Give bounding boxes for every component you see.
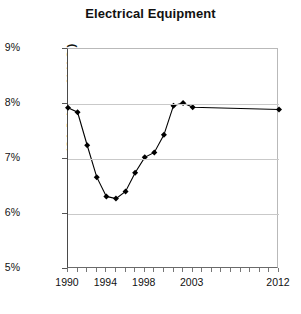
series-polyline (68, 103, 279, 199)
chart-title: Electrical Equipment (0, 6, 301, 21)
y-axis-tick-mark (62, 158, 67, 159)
x-axis-tick-mark (77, 268, 78, 272)
x-axis-tick-label: 1998 (132, 276, 155, 288)
x-axis-tick-mark (125, 268, 126, 272)
data-point-marker (94, 174, 100, 180)
data-point-marker (132, 170, 138, 176)
y-axis-tick-mark (62, 103, 67, 104)
gridline (68, 214, 279, 215)
data-point-marker (190, 104, 196, 110)
y-axis-tick-label: 9% (0, 41, 20, 53)
x-axis-tick-label: 2012 (266, 276, 289, 288)
x-axis-tick-mark (153, 268, 154, 272)
x-axis-tick-mark (192, 268, 193, 272)
x-axis-tick-mark (134, 268, 135, 272)
y-axis-tick-mark (62, 48, 67, 49)
y-axis-tick-label: 7% (0, 151, 20, 163)
data-point-marker (103, 193, 109, 199)
x-axis-tick-mark (115, 268, 116, 272)
x-axis-tick-mark (240, 268, 241, 272)
data-point-marker (161, 132, 167, 138)
x-axis-tick-mark (268, 268, 269, 272)
gridline (68, 104, 279, 105)
x-axis-tick-mark (249, 268, 250, 272)
y-axis-tick-label: 6% (0, 206, 20, 218)
x-axis-tick-mark (201, 268, 202, 272)
plot-area (67, 48, 278, 268)
x-axis-tick-label: 1990 (55, 276, 78, 288)
gridline (68, 159, 279, 160)
x-axis-tick-mark (105, 268, 106, 272)
data-point-marker (151, 149, 157, 155)
data-point-marker (84, 142, 90, 148)
y-axis-tick-label: 5% (0, 261, 20, 273)
x-axis-tick-mark (144, 268, 145, 272)
x-axis-tick-mark (173, 268, 174, 272)
data-point-marker (75, 109, 81, 115)
x-axis-tick-mark (67, 268, 68, 272)
x-axis-tick-mark (259, 268, 260, 272)
x-axis-tick-mark (230, 268, 231, 272)
chart-figure: Electrical Equipment (CA Jobs as % U.S.)… (0, 0, 301, 314)
x-axis-tick-label: 2003 (180, 276, 203, 288)
x-axis-tick-mark (96, 268, 97, 272)
x-axis-tick-label: 1994 (94, 276, 117, 288)
x-axis-tick-mark (182, 268, 183, 272)
data-point-marker (276, 107, 282, 113)
x-axis-tick-mark (163, 268, 164, 272)
x-axis-tick-mark (211, 268, 212, 272)
x-axis-tick-mark (278, 268, 279, 272)
y-axis-tick-label: 8% (0, 96, 20, 108)
x-axis-tick-mark (86, 268, 87, 272)
y-axis-tick-mark (62, 213, 67, 214)
x-axis-tick-mark (220, 268, 221, 272)
